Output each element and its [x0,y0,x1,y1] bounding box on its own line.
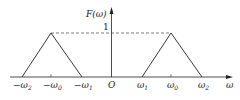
left-triangle [22,33,82,77]
origin-label: O [108,80,116,90]
svg-text:ω2: ω2 [198,80,209,91]
right-triangle [142,33,202,77]
svg-text:ω0: ω0 [167,80,178,91]
x-axis-arrow-icon [226,75,233,79]
peak-value-label: 1 [103,22,109,32]
y-axis-arrow-icon [110,7,114,14]
y-axis-label: F(ω) [85,9,107,19]
tick-label-neg-omega0: −ω0 [43,80,62,91]
svg-text:−ω0: −ω0 [43,80,62,91]
svg-text:ω1: ω1 [137,80,148,91]
tick-label-omega1: ω1 [137,80,148,91]
tick-label-neg-omega1: −ω1 [74,80,93,91]
svg-text:−ω2: −ω2 [13,80,32,91]
tick-label-omega2: ω2 [198,80,209,91]
tick-label-neg-omega2: −ω2 [13,80,32,91]
tick-label-omega0: ω0 [167,80,178,91]
x-axis-label: ω [226,80,234,90]
spectrum-diagram: F(ω) 1 O ω −ω2 −ω0 −ω1 ω1 ω0 ω2 [0,0,240,100]
svg-text:−ω1: −ω1 [74,80,93,91]
